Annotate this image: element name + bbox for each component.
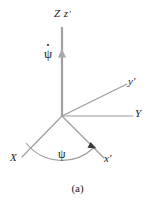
label-z-axis: Z z' <box>54 8 71 19</box>
figure-container: Z z' ψ y' Y X x' ψ (a) <box>0 0 155 203</box>
axis-line-x-prime <box>62 116 104 158</box>
label-z-axis-prime: ' <box>69 9 71 19</box>
arrowhead-z-axis <box>58 49 66 58</box>
label-x-prime-axis: x' <box>104 153 111 164</box>
figure-caption: (a) <box>0 182 155 194</box>
label-Y-axis: Y <box>135 108 141 119</box>
axis-line-X <box>22 116 62 157</box>
label-psi-dot: ψ <box>44 47 52 60</box>
label-X-axis: X <box>10 152 17 163</box>
axis-line-y-prime <box>62 84 127 116</box>
label-z-axis-text: Z z <box>54 7 69 19</box>
label-psi-angle: ψ <box>58 148 66 160</box>
axes-diagram <box>0 0 155 203</box>
label-y-prime-axis: y' <box>128 76 135 87</box>
label-psi-dot-text: ψ <box>44 47 52 60</box>
